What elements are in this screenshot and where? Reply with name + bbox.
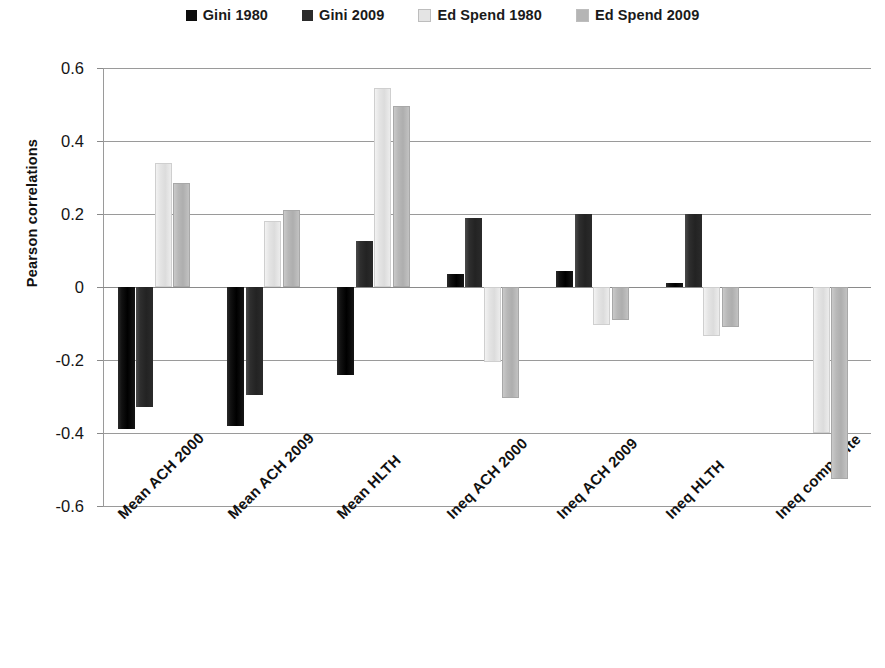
bar-fill bbox=[575, 214, 592, 287]
y-axis-tick-label: -0.2 bbox=[56, 351, 84, 370]
bar-fill bbox=[484, 287, 501, 362]
y-axis-tick-label: 0.6 bbox=[61, 59, 84, 78]
chart-legend: Gini 1980Gini 2009Ed Spend 1980Ed Spend … bbox=[0, 4, 885, 26]
legend-item-label: Gini 1980 bbox=[203, 7, 268, 23]
y-axis-tick-label: 0.4 bbox=[61, 132, 84, 151]
y-axis-title: Pearson correlations bbox=[24, 13, 40, 413]
y-axis-tick-label: -0.4 bbox=[56, 424, 84, 443]
bar bbox=[337, 287, 354, 375]
bar-fill bbox=[283, 210, 300, 287]
bar-fill bbox=[393, 106, 410, 287]
bar bbox=[612, 287, 629, 320]
bar-fill bbox=[722, 287, 739, 327]
y-axis-tick-label: 0 bbox=[75, 278, 84, 297]
bar-fill bbox=[447, 274, 464, 287]
legend-swatch-icon bbox=[186, 10, 197, 21]
bar bbox=[173, 183, 190, 287]
legend-item-label: Ed Spend 2009 bbox=[595, 7, 699, 23]
bar-fill bbox=[136, 287, 153, 407]
bar-fill bbox=[227, 287, 244, 426]
bar bbox=[155, 163, 172, 287]
bar-fill bbox=[593, 287, 610, 325]
bar-fill bbox=[813, 287, 830, 433]
bar-fill bbox=[337, 287, 354, 375]
bar bbox=[685, 214, 702, 287]
bar bbox=[465, 218, 482, 287]
bar bbox=[722, 287, 739, 327]
bar-fill bbox=[685, 214, 702, 287]
legend-item-label: Gini 2009 bbox=[319, 7, 384, 23]
bar-fill bbox=[356, 241, 373, 287]
bar bbox=[118, 287, 135, 429]
legend-item: Gini 1980 bbox=[186, 7, 268, 23]
legend-swatch-icon bbox=[302, 10, 313, 21]
bar bbox=[502, 287, 519, 398]
bar bbox=[246, 287, 263, 395]
bar-fill bbox=[173, 183, 190, 287]
y-axis-tick-labels: 0.60.40.20-0.2-0.4-0.6 bbox=[0, 68, 96, 506]
bar-fill bbox=[155, 163, 172, 287]
y-axis-tick-label: -0.6 bbox=[56, 497, 84, 516]
bar-fill bbox=[703, 287, 720, 336]
bar bbox=[283, 210, 300, 287]
bar-chart: Gini 1980Gini 2009Ed Spend 1980Ed Spend … bbox=[0, 0, 885, 668]
bar bbox=[556, 271, 573, 287]
legend-item: Ed Spend 2009 bbox=[576, 7, 699, 23]
bar bbox=[575, 214, 592, 287]
bar-fill bbox=[666, 283, 683, 287]
bar-fill bbox=[246, 287, 263, 395]
bar-group bbox=[652, 68, 762, 506]
bar bbox=[136, 287, 153, 407]
x-axis-tick-labels: Mean ACH 2000Mean ACH 2009Mean HLTHIneq … bbox=[103, 506, 871, 668]
bar bbox=[447, 274, 464, 287]
bar-fill bbox=[374, 88, 391, 287]
bar bbox=[393, 106, 410, 287]
legend-swatch-icon bbox=[576, 9, 589, 22]
legend-item: Gini 2009 bbox=[302, 7, 384, 23]
bar bbox=[264, 221, 281, 287]
bar-group bbox=[322, 68, 432, 506]
bar bbox=[831, 287, 848, 479]
legend-swatch-icon bbox=[418, 9, 431, 22]
bar bbox=[593, 287, 610, 325]
bar-fill bbox=[502, 287, 519, 398]
bar bbox=[813, 287, 830, 433]
legend-item: Ed Spend 1980 bbox=[418, 7, 541, 23]
bar bbox=[356, 241, 373, 287]
bar-fill bbox=[118, 287, 135, 429]
bar bbox=[703, 287, 720, 336]
bar-fill bbox=[556, 271, 573, 287]
bar-fill bbox=[465, 218, 482, 287]
bar bbox=[374, 88, 391, 287]
plot-area bbox=[103, 68, 871, 506]
bar-fill bbox=[612, 287, 629, 320]
bar-fill bbox=[831, 287, 848, 479]
y-axis-tick-label: 0.2 bbox=[61, 205, 84, 224]
legend-item-label: Ed Spend 1980 bbox=[437, 7, 541, 23]
bar bbox=[484, 287, 501, 362]
bar-fill bbox=[264, 221, 281, 287]
bar bbox=[227, 287, 244, 426]
bar bbox=[666, 283, 683, 287]
